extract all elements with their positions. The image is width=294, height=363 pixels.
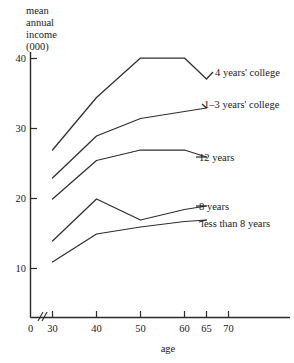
y-axis-title-line-3: income <box>26 29 57 40</box>
y-tick-label-20: 20 <box>16 193 27 204</box>
x-axis-break-mark <box>38 312 47 321</box>
x-tick-label-60: 60 <box>179 323 190 334</box>
series-label-12-years: 12 years <box>199 152 234 163</box>
x-tick-label-0: 0 <box>28 323 33 334</box>
series-label-leaders <box>196 72 213 222</box>
x-tick-label-30: 30 <box>47 323 58 334</box>
leader-4-years-college <box>207 72 214 79</box>
y-axis-title-line-4: (000) <box>26 41 49 53</box>
y-tick-label-30: 30 <box>16 123 27 134</box>
series-label-4-years-college: 4 years' college <box>215 67 280 78</box>
series-lines <box>53 58 207 262</box>
series-label-less-than-8-years: less than 8 years <box>201 218 270 229</box>
y-tick-label-10: 10 <box>16 263 27 274</box>
x-axis-title: age <box>161 343 176 354</box>
y-axis-title-line-2: annual <box>26 17 54 28</box>
series-labels: 4 years' college 1–3 years' college 12 y… <box>199 67 280 229</box>
income-by-age-line-chart: mean annual income (000) 40 30 20 10 0 3… <box>0 0 294 363</box>
y-tick-label-40: 40 <box>16 53 27 64</box>
x-axis-ticks: 0 30 40 50 60 65 70 <box>28 311 234 334</box>
x-tick-label-50: 50 <box>135 323 146 334</box>
series-label-1-3-years-college: 1–3 years' college <box>204 99 280 110</box>
series-line-1-3-years-college <box>53 108 207 178</box>
chart-figure: mean annual income (000) 40 30 20 10 0 3… <box>0 0 294 363</box>
x-tick-label-65: 65 <box>201 323 212 334</box>
x-tick-label-70: 70 <box>223 323 234 334</box>
y-axis-title-line-1: mean <box>26 5 49 16</box>
series-label-8-years: 8 years <box>199 201 229 212</box>
x-tick-label-40: 40 <box>91 323 102 334</box>
y-axis-title: mean annual income (000) <box>26 5 57 53</box>
series-line-8-years <box>53 199 207 241</box>
y-axis-ticks: 40 30 20 10 <box>16 53 38 274</box>
series-line-12-years <box>53 150 207 199</box>
series-line-less-than-8-years <box>53 220 207 262</box>
series-line-4-years-college <box>53 58 207 150</box>
